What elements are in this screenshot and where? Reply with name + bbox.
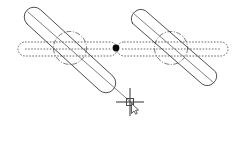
mouse-pointer-icon: [132, 104, 139, 115]
left-slanted-slot[interactable]: [24, 7, 133, 104]
right-horizontal-hidden-slot[interactable]: [117, 42, 228, 56]
right-slanted-slot[interactable]: [131, 10, 216, 86]
cad-drawing-svg[interactable]: [0, 0, 243, 155]
left-horizontal-hidden-slot[interactable]: [18, 42, 117, 56]
midpoint-snap-marker[interactable]: [113, 45, 120, 52]
right-construction-circle[interactable]: [155, 32, 188, 65]
cad-drawing-canvas[interactable]: [0, 0, 243, 155]
crosshair-cursor[interactable]: [116, 88, 144, 116]
